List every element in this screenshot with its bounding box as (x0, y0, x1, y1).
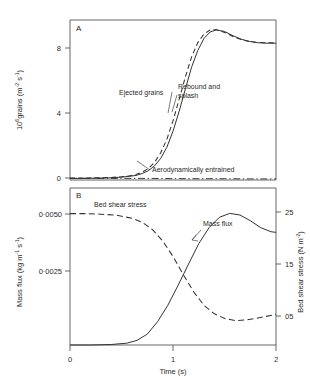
figure-container: 8 4 0 A 106grains (m-2 s-1) Ejected grai… (0, 0, 310, 379)
curve-ejected-grains (70, 30, 276, 178)
panel-b-xlabel: Time (s) (159, 367, 187, 376)
annotation-mass-flux: Mass flux (203, 220, 233, 227)
panel-b-label: B (76, 191, 81, 200)
annotation-rebound-and: Rebound and (178, 83, 220, 90)
panel-b-yticks-left (65, 214, 70, 271)
svg-text:Bed shear stress (N m-2): Bed shear stress (N m-2) (295, 231, 305, 313)
annotation-aerodynamically-entrained: Aerodynamically entrained (152, 166, 235, 174)
panel-a-ylabel-end: ) (15, 69, 24, 72)
panel-b-ylabel-left: Mass flux (kg m-1 s-1) (14, 236, 24, 307)
panel-b-xtick-2: 2 (274, 355, 278, 364)
curve-aerodynamically-entrained (70, 178, 276, 179)
panel-b-xtick-1: 1 (171, 355, 175, 364)
panel-b-ylabel-left-end: ) (15, 236, 24, 239)
panel-a-label: A (76, 24, 82, 33)
panel-a-ytick-4: 4 (57, 109, 61, 118)
panel-b-yticks-right (276, 212, 281, 316)
panel-b-ylabel-right: Bed shear stress (N m-2) (295, 231, 305, 313)
panel-a-axes (70, 20, 276, 180)
svg-text:Mass flux (kg m-1 s-1): Mass flux (kg m-1 s-1) (14, 236, 24, 307)
scientific-figure: 8 4 0 A 106grains (m-2 s-1) Ejected grai… (0, 0, 310, 379)
panel-b-ylabel-left-base: Mass flux (kg m (15, 255, 24, 308)
svg-text:106grains (m-2 s-1): 106grains (m-2 s-1) (14, 69, 24, 130)
panel-b-xticks (70, 345, 276, 351)
panel-a-ylabel-base: 10 (15, 122, 24, 130)
curve-rebound-and-splash (70, 30, 276, 179)
panel-b: 0·0050 0·0025 25 15 05 0 1 2 Time (s) B … (14, 188, 305, 376)
annotation-ejected-grains: Ejected grains (119, 89, 164, 97)
panel-b-ytick-right-15: 15 (285, 260, 293, 269)
curve-bed-shear-stress (70, 214, 276, 321)
panel-a-ylabel-rest: grains (m (15, 88, 24, 119)
panel-b-axes (70, 188, 276, 345)
annotation-splash: splash (178, 92, 198, 100)
curve-mass-flux (70, 213, 276, 345)
panel-b-leader-lines (192, 230, 201, 241)
panel-b-xtick-0: 0 (68, 355, 72, 364)
panel-b-ylabel-right-end: ) (296, 231, 305, 234)
panel-b-ytick-0050: 0·0050 (39, 210, 62, 219)
panel-b-ytick-right-25: 25 (285, 208, 293, 217)
panel-b-ytick-right-05: 05 (285, 312, 293, 321)
panel-a-ytick-0: 0 (57, 174, 61, 183)
panel-b-ylabel-right-base: Bed shear stress (N m (296, 238, 305, 313)
annotation-bed-shear-stress: Bed shear stress (94, 201, 147, 208)
panel-b-ytick-0025: 0·0025 (39, 267, 62, 276)
panel-a-ylabel: 106grains (m-2 s-1) (14, 69, 24, 130)
panel-a-yticks (65, 48, 70, 178)
panel-a-ytick-8: 8 (57, 44, 61, 53)
panel-a: 8 4 0 A 106grains (m-2 s-1) Ejected grai… (14, 20, 276, 183)
